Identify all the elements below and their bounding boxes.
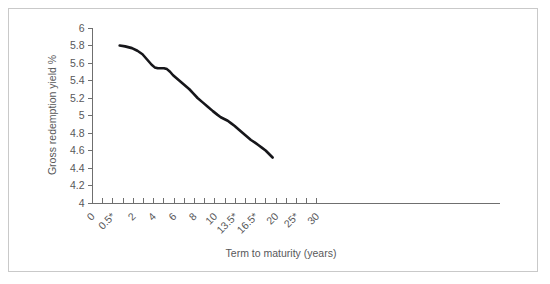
- yield-curve-chart: 44.24.44.64.855.25.45.65.86 00.5*2468101…: [0, 0, 550, 284]
- x-axis-title: Term to maturity (years): [226, 247, 337, 259]
- x-tick-label: 30: [305, 210, 322, 227]
- x-tick-label: 16.5*: [234, 210, 260, 236]
- y-tick-label: 5.4: [70, 74, 85, 86]
- x-tick-label: 6: [166, 210, 179, 223]
- y-tick-label: 5.6: [70, 57, 85, 69]
- x-axis-tick-labels: 00.5*24681013.5*16.5*2025*30: [84, 210, 321, 236]
- y-tick-label: 6: [79, 22, 85, 34]
- y-tick-label: 5.8: [70, 39, 85, 51]
- yield-curve-line: [120, 46, 273, 158]
- y-axis-ticks: [88, 28, 93, 203]
- y-tick-label: 5: [79, 109, 85, 121]
- x-tick-label: 25*: [281, 210, 301, 230]
- y-axis-tick-labels: 44.24.44.64.855.25.45.65.86: [70, 22, 85, 209]
- x-axis-ticks: [93, 198, 317, 203]
- x-tick-label: 0.5*: [96, 210, 118, 232]
- y-axis-title: Gross redemption yield %: [46, 55, 58, 175]
- y-axis: 44.24.44.64.855.25.45.65.86: [70, 22, 93, 209]
- y-tick-label: 4.2: [70, 179, 85, 191]
- y-tick-label: 4: [79, 197, 85, 209]
- x-axis: 00.5*24681013.5*16.5*2025*30: [84, 198, 500, 236]
- x-tick-label: 2: [125, 210, 138, 223]
- x-tick-label: 13.5*: [214, 210, 240, 236]
- x-tick-label: 4: [145, 210, 158, 223]
- x-tick-label: 0: [84, 210, 97, 223]
- x-tick-label: 20: [264, 210, 281, 227]
- y-tick-label: 5.2: [70, 92, 85, 104]
- y-tick-label: 4.6: [70, 144, 85, 156]
- y-tick-label: 4.4: [70, 162, 85, 174]
- x-tick-label: 8: [186, 210, 199, 223]
- y-tick-label: 4.8: [70, 127, 85, 139]
- figure-container: 44.24.44.64.855.25.45.65.86 00.5*2468101…: [0, 0, 550, 284]
